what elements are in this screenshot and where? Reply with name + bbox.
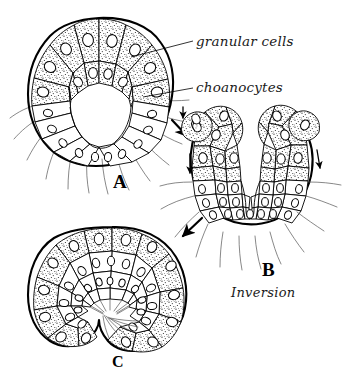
panel-b-left-arm (181, 106, 242, 151)
arrow-b-right-cell (317, 150, 320, 168)
panel-letter-c: C (112, 353, 124, 370)
caption-inversion: Inversion (230, 285, 296, 300)
panel-b-flagella (160, 182, 341, 270)
panel-c-group (28, 227, 186, 352)
panel-letter-a: A (113, 171, 127, 192)
arrow-b-to-c (183, 218, 202, 236)
label-choanocytes: choanocytes (196, 79, 283, 95)
sponge-inversion-figure: granular cells choanocytes A (0, 0, 363, 380)
panel-a-group (10, 18, 189, 194)
figure-canvas: granular cells choanocytes A (0, 0, 363, 380)
panel-b-group (160, 105, 341, 270)
panel-letter-b: B (262, 259, 275, 280)
label-granular-cells: granular cells (196, 33, 294, 49)
panel-b-granular-band (192, 144, 309, 182)
